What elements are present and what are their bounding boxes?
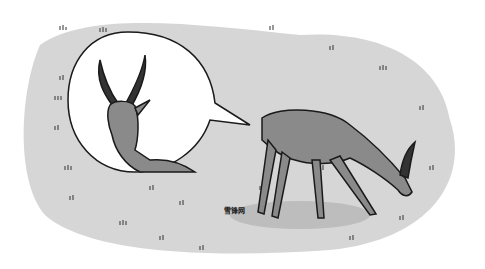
illustration: 雪锋网: [0, 0, 485, 269]
watermark-text: 雪锋网: [224, 205, 245, 215]
grassland-scene: [0, 0, 485, 269]
shadow: [230, 201, 370, 229]
